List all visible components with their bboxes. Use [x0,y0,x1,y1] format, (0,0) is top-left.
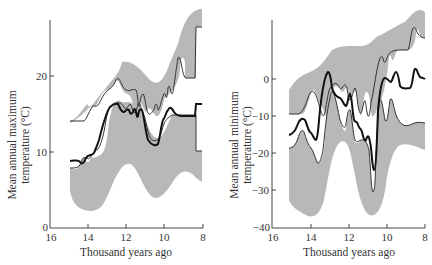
right-xtick-16: 16 [268,231,280,243]
right-lower-band [289,92,425,217]
right-ytick-minus20: −20 [252,147,270,159]
right-xtick-10: 10 [382,231,394,243]
left-chart: 20 10 0 16 14 12 10 8 Thousand years ago… [6,9,206,259]
right-chart: 0 −10 −20 −30 −40 16 14 12 10 8 Thousand… [228,10,428,259]
left-y-axis-title-line2: temperature (°C) [19,106,32,184]
left-xtick-16: 16 [46,231,58,243]
left-xtick-8: 8 [200,231,206,243]
right-xtick-14: 14 [306,231,318,243]
left-xtick-10: 10 [159,231,171,243]
left-xtick-12: 12 [121,231,132,243]
right-xtick-12: 12 [344,231,355,243]
right-ytick-minus30: −30 [252,184,270,196]
right-x-axis-title: Thousand years ago [303,246,395,259]
left-ytick-10: 10 [36,146,48,158]
right-y-axis-title-line2: temperature (°C) [241,106,254,184]
left-x-axis-title: Thousand years ago [80,246,172,259]
right-ytick-minus10: −10 [252,110,270,122]
left-xtick-14: 14 [83,231,95,243]
right-xtick-8: 8 [422,231,428,243]
left-ytick-20: 20 [36,70,48,82]
left-upper-band [70,9,202,123]
figure: 20 10 0 16 14 12 10 8 Thousand years ago… [0,0,432,265]
right-ytick-0: 0 [264,73,270,85]
left-y-axis-title-line1: Mean annual maximum [6,90,18,199]
right-y-axis-title-line1: Mean annual minimum [228,91,240,198]
